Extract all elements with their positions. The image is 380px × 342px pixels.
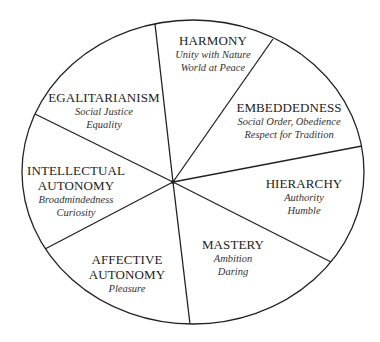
segment-value: Unity with Nature [175,48,250,61]
segment-title: HIERARCHY [266,176,343,191]
segment-value: Pleasure [89,282,165,295]
segment-affective-autonomy: AFFECTIVE AUTONOMY Pleasure [89,252,165,295]
segment-value: Equality [48,118,160,131]
segment-value: Humble [266,204,343,217]
segment-value: Social Order, Obedience [236,115,341,128]
segment-title: INTELLECTUAL [27,163,125,178]
segment-title: AUTONOMY [27,178,125,193]
segment-title: AUTONOMY [89,267,165,282]
segment-value: Daring [202,265,264,278]
segment-value: Ambition [202,252,264,265]
segment-title: EMBEDDEDNESS [236,100,341,115]
segment-intellectual-autonomy: INTELLECTUAL AUTONOMY Broadmindedness Cu… [27,163,125,219]
segment-value: Broadmindedness [27,193,125,206]
segment-mastery: MASTERY Ambition Daring [202,237,264,278]
segment-value: Curiosity [27,206,125,219]
center-point [171,180,175,184]
segment-title: HARMONY [175,33,250,48]
divider-mastery-affective [173,182,190,324]
segment-value: Authority [266,191,343,204]
segment-title: EGALITARIANISM [48,90,160,105]
segment-harmony: HARMONY Unity with Nature World at Peace [175,33,250,74]
segment-value: World at Peace [175,61,250,74]
segment-egalitarianism: EGALITARIANISM Social Justice Equality [48,90,160,131]
segment-embeddedness: EMBEDDEDNESS Social Order, Obedience Res… [236,100,341,141]
segment-value: Social Justice [48,105,160,118]
segment-value: Respect for Tradition [236,128,341,141]
segment-hierarchy: HIERARCHY Authority Humble [266,176,343,217]
segment-title: MASTERY [202,237,264,252]
segment-title: AFFECTIVE [89,252,165,267]
